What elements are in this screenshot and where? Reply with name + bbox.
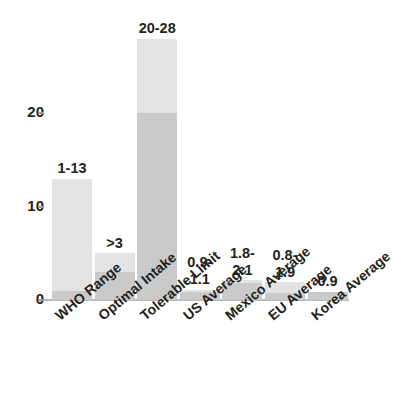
- bar-group[interactable]: >3: [95, 20, 135, 300]
- bar-segment-max: [137, 39, 177, 114]
- bar-group[interactable]: 1-13: [52, 20, 92, 300]
- y-axis-tick-10: 10: [0, 197, 44, 215]
- y-axis-tickmark: [38, 206, 44, 208]
- x-axis-labels: WHO RangeOptimal IntakeTolerable LimitUS…: [0, 303, 353, 420]
- y-axis-tick-20: 20: [0, 103, 44, 121]
- y-axis-tickmark: [38, 112, 44, 114]
- bar-group[interactable]: 0.9: [308, 20, 348, 300]
